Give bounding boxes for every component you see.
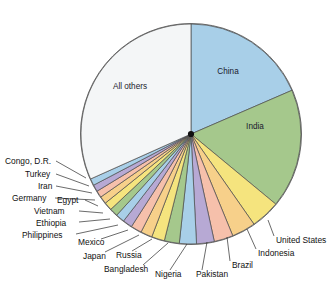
- slice-label-brazil-leader-line: [227, 237, 230, 261]
- slice-label-bangladesh: Bangladesh: [104, 264, 149, 274]
- slice-label-iran: Iran: [38, 181, 53, 191]
- pie-center-hub: [188, 131, 194, 137]
- slice-label-united-states-leader-line: [268, 220, 274, 236]
- slice-label-all-others: All others: [113, 82, 147, 91]
- pie-chart-figure: ChinaIndiaAll others United StatesIndone…: [0, 0, 335, 286]
- slice-label-nigeria-leader-line: [170, 244, 187, 270]
- slice-label-indonesia: Indonesia: [258, 248, 295, 258]
- slice-label-philippines-leader-line: [76, 225, 118, 234]
- slice-label-indonesia-leader-line: [247, 229, 256, 249]
- slice-label-pakistan-leader-line: [202, 242, 207, 270]
- slice-label-brazil: Brazil: [232, 260, 253, 270]
- slice-label-russia: Russia: [116, 250, 142, 260]
- slice-label-nigeria: Nigeria: [155, 269, 182, 279]
- slice-label-iran-leader-line: [56, 186, 92, 193]
- slice-label-mexico: Mexico: [78, 237, 105, 247]
- slice-label-turkey-leader-line: [56, 174, 89, 186]
- slice-label-japan: Japan: [83, 251, 106, 261]
- slice-label-vietnam: Vietnam: [34, 206, 65, 216]
- slice-label-turkey: Turkey: [25, 169, 51, 179]
- pie-chart-svg: ChinaIndiaAll others United StatesIndone…: [0, 0, 335, 286]
- slice-label-bangladesh-leader-line: [143, 243, 168, 265]
- slice-label-congo-dr: Congo, D.R.: [5, 156, 51, 166]
- slice-label-philippines: Philippines: [22, 230, 63, 240]
- slice-label-vietnam-leader-line: [79, 211, 103, 213]
- slice-label-china: China: [217, 67, 239, 76]
- slice-label-united-states: United States: [276, 235, 326, 245]
- slice-label-egypt: Egypt: [57, 195, 79, 205]
- slice-label-egypt-leader-line: [85, 200, 98, 206]
- slice-label-germany: Germany: [12, 193, 47, 203]
- slice-label-mexico-leader-line: [101, 230, 128, 239]
- slice-label-ethiopia: Ethiopia: [36, 218, 67, 228]
- slice-label-ethiopia-leader-line: [79, 219, 110, 222]
- slice-label-pakistan: Pakistan: [196, 269, 228, 279]
- slice-label-india: India: [246, 122, 264, 131]
